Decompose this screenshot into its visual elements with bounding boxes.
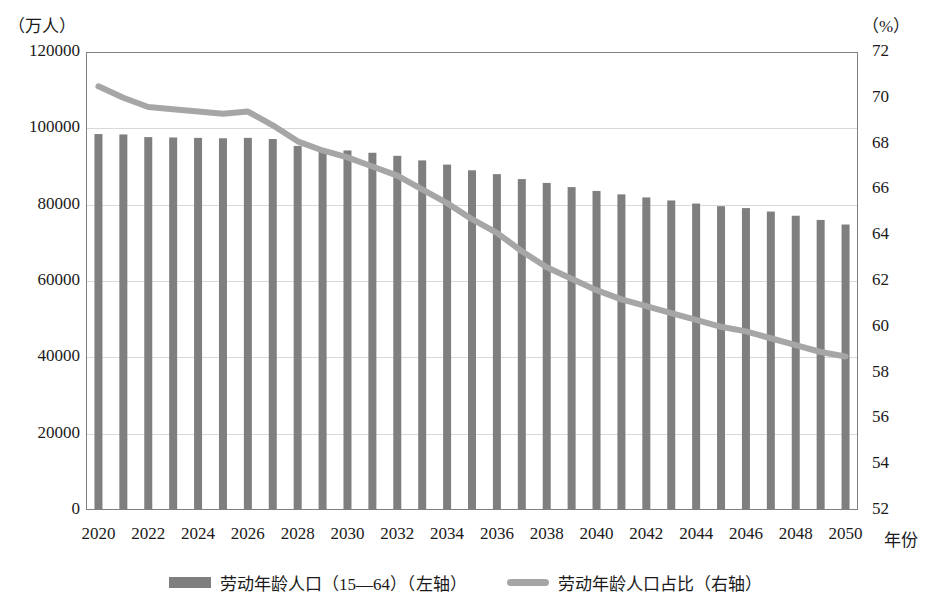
bar (219, 138, 227, 510)
bar (244, 138, 252, 510)
right-axis-tick-label: 60 (872, 316, 889, 336)
bar (717, 206, 725, 510)
bar (543, 183, 551, 510)
right-axis-unit-label: （%） (862, 12, 910, 37)
x-axis-tick-label: 2026 (231, 524, 265, 544)
bar (119, 134, 127, 510)
x-axis-tick-label: 2030 (330, 524, 364, 544)
legend-label-bar: 劳动年龄人口（15—64）（左轴） (220, 570, 467, 595)
x-axis-tick-label: 2040 (580, 524, 614, 544)
bar (767, 212, 775, 510)
plot-area (86, 52, 858, 510)
bar (169, 137, 177, 510)
bar (94, 134, 102, 510)
right-axis-tick-label: 66 (872, 178, 889, 198)
bar (418, 160, 426, 510)
right-axis-tick-label: 64 (872, 224, 889, 244)
bar (692, 204, 700, 510)
x-axis-tick-label: 2038 (530, 524, 564, 544)
x-axis-tick-label: 2020 (81, 524, 115, 544)
x-axis-tick-label: 2036 (480, 524, 514, 544)
bar (343, 150, 351, 510)
bar (493, 174, 501, 510)
right-axis-tick-label: 52 (872, 499, 889, 519)
bar-swatch-icon (169, 577, 211, 588)
x-axis-tick-label: 2048 (779, 524, 813, 544)
x-axis-tick-label: 2022 (131, 524, 165, 544)
right-axis-tick-label: 70 (872, 87, 889, 107)
bar (742, 208, 750, 510)
left-axis-tick-label: 60000 (6, 270, 80, 290)
x-axis-tick-label: 2028 (281, 524, 315, 544)
x-axis-tick-label: 2034 (430, 524, 464, 544)
bar (568, 187, 576, 510)
left-axis-tick-label: 20000 (6, 423, 80, 443)
x-axis-tick-label: 2044 (679, 524, 713, 544)
left-axis-unit-label: （万人） (8, 12, 76, 37)
bar (294, 146, 302, 510)
bar (518, 179, 526, 510)
x-axis-title: 年份 (884, 526, 918, 551)
left-axis-tick-label: 100000 (6, 117, 80, 137)
right-axis-tick-label: 56 (872, 407, 889, 427)
x-axis-tick-label: 2042 (629, 524, 663, 544)
bar (593, 191, 601, 510)
legend-label-line: 劳动年龄人口占比（右轴） (558, 570, 762, 595)
bar (817, 220, 825, 510)
x-axis-tick-label: 2050 (829, 524, 863, 544)
legend-item-bar: 劳动年龄人口（15—64）（左轴） (169, 570, 467, 595)
legend-item-line: 劳动年龄人口占比（右轴） (507, 570, 762, 595)
bar (443, 165, 451, 510)
x-axis-tick-label: 2032 (380, 524, 414, 544)
left-axis-tick-label: 120000 (6, 41, 80, 61)
bar (194, 138, 202, 510)
right-axis-tick-label: 54 (872, 453, 889, 473)
left-axis-tick-label: 40000 (6, 346, 80, 366)
bar (642, 197, 650, 510)
x-axis-tick-label: 2024 (181, 524, 215, 544)
bar (667, 200, 675, 510)
right-axis-tick-label: 58 (872, 362, 889, 382)
x-axis-tick-label: 2046 (729, 524, 763, 544)
bar (368, 153, 376, 510)
right-axis-tick-label: 68 (872, 133, 889, 153)
bar (842, 225, 850, 510)
left-axis-tick-label: 0 (6, 499, 80, 519)
chart-legend: 劳动年龄人口（15—64）（左轴） 劳动年龄人口占比（右轴） (0, 570, 931, 595)
bar (792, 216, 800, 510)
right-axis-tick-label: 72 (872, 41, 889, 61)
line-swatch-icon (507, 579, 549, 586)
bar (269, 139, 277, 510)
bar (144, 137, 152, 510)
bar (319, 149, 327, 510)
bar (393, 156, 401, 510)
bar-series (94, 134, 849, 510)
plot-svg (86, 52, 858, 510)
left-axis-tick-label: 80000 (6, 194, 80, 214)
labor-force-projection-chart: （万人） （%） 0200004000060000800001000001200… (0, 0, 931, 608)
bar (617, 194, 625, 510)
right-axis-tick-label: 62 (872, 270, 889, 290)
